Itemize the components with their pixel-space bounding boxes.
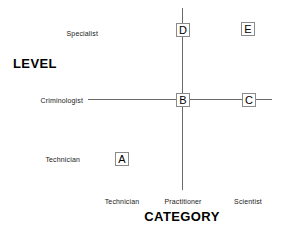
y-tick-label-specialist: Specialist xyxy=(26,30,98,37)
x-axis-title: CATEGORY xyxy=(144,209,219,224)
data-point-d[interactable]: D xyxy=(176,23,190,37)
x-tick-label-technician: Technician xyxy=(105,198,140,205)
data-point-b[interactable]: B xyxy=(176,93,190,107)
quadrant-diagram: Specialist Criminologist Technician Tech… xyxy=(0,0,283,235)
data-point-c[interactable]: C xyxy=(242,93,256,107)
data-point-a[interactable]: A xyxy=(115,152,129,166)
x-tick-label-scientist: Scientist xyxy=(234,198,262,205)
data-point-e[interactable]: E xyxy=(241,22,255,36)
y-tick-label-criminologist: Criminologist xyxy=(8,97,83,104)
x-tick-label-practitioner: Practitioner xyxy=(164,198,201,205)
y-tick-label-technician: Technician xyxy=(12,156,80,163)
y-axis-title: LEVEL xyxy=(13,56,57,71)
